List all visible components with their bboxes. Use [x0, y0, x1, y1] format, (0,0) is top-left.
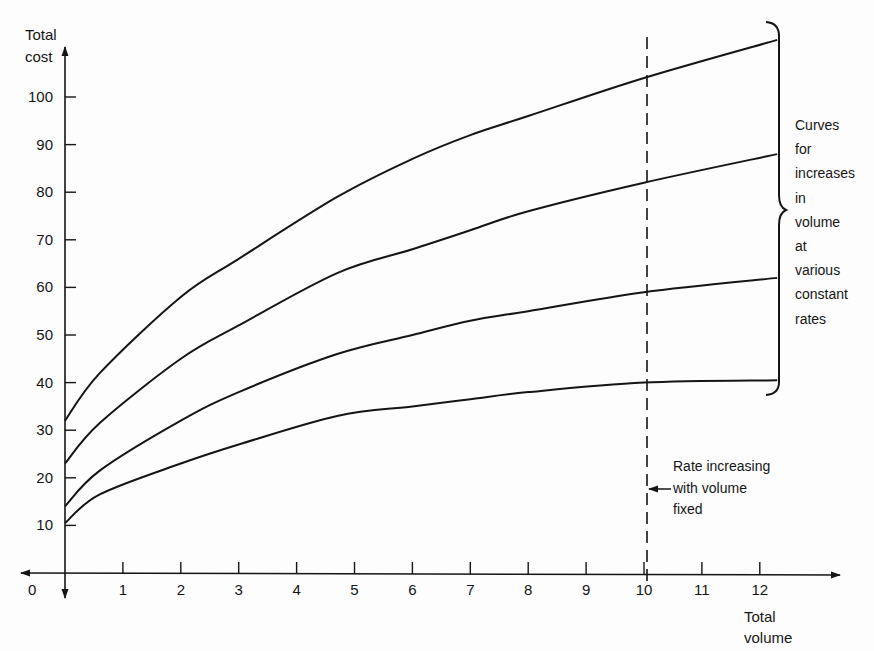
cost-curve-4	[65, 380, 777, 523]
x-axis-label: Total volume	[744, 606, 792, 648]
cost-curve-1	[65, 40, 777, 421]
brace-note-line: volume	[795, 210, 855, 234]
y-tick-label: 10	[19, 517, 53, 532]
cost-curve-3	[65, 278, 777, 506]
x-tick-label: 3	[224, 582, 254, 597]
y-axis-label: Total cost	[25, 24, 57, 68]
brace-note-line: rates	[795, 307, 855, 331]
x-tick-label: 10	[629, 582, 659, 597]
x-tick-label: 7	[455, 582, 485, 597]
brace-note-line: for	[795, 137, 855, 161]
y-tick-label: 30	[19, 422, 53, 437]
x-tick-label: 2	[166, 582, 196, 597]
y-tick-label: 80	[19, 184, 53, 199]
brace-note-line: increases	[795, 161, 855, 185]
x-tick-label: 12	[745, 582, 775, 597]
y-tick-label: 70	[19, 232, 53, 247]
x-tick-label: 6	[397, 582, 427, 597]
origin-label: 0	[28, 582, 36, 597]
x-tick-label: 11	[687, 582, 717, 597]
curves-brace	[766, 22, 786, 395]
x-tick-label: 5	[340, 582, 370, 597]
brace-note-line: constant	[795, 282, 855, 306]
brace-note-line: in	[795, 186, 855, 210]
brace-note-line: Curves	[795, 113, 855, 137]
dashed-note-line: fixed	[673, 499, 770, 521]
cost-curves	[65, 40, 777, 523]
brace-note-line: various	[795, 258, 855, 282]
x-tick-label: 4	[282, 582, 312, 597]
dashed-note-line: with volume	[673, 478, 770, 500]
y-tick-label: 100	[19, 89, 53, 104]
y-tick-label: 40	[19, 375, 53, 390]
x-tick-label: 1	[108, 582, 138, 597]
brace-annotation: Curvesforincreasesinvolumeatvariousconst…	[795, 113, 855, 331]
y-tick-label: 50	[19, 327, 53, 342]
x-tick-marks	[123, 562, 760, 574]
x-tick-label: 9	[571, 582, 601, 597]
y-tick-label: 60	[19, 279, 53, 294]
y-tick-label: 90	[19, 137, 53, 152]
x-tick-label: 8	[513, 582, 543, 597]
brace-note-line: at	[795, 234, 855, 258]
x-axis	[21, 573, 840, 575]
dashed-line-annotation: Rate increasingwith volumefixed	[673, 456, 770, 521]
dashed-note-line: Rate increasing	[673, 456, 770, 478]
y-tick-label: 20	[19, 470, 53, 485]
cost-curve-2	[65, 154, 777, 463]
chart-canvas	[0, 0, 874, 651]
